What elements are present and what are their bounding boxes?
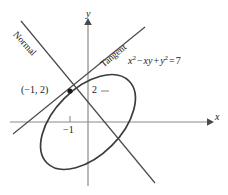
- y-axis-arrowhead: [84, 18, 92, 25]
- point-of-tangency-marker: [67, 88, 72, 93]
- x-axis-arrowhead: [207, 118, 214, 126]
- tangent-line: [13, 27, 145, 134]
- x-axis: [10, 116, 214, 126]
- tangent-normal-ellipse-figure: y x 2 −1 (−1, 2) Normal Tangent x2−xy+y2…: [0, 0, 228, 195]
- plot-canvas: [0, 0, 228, 195]
